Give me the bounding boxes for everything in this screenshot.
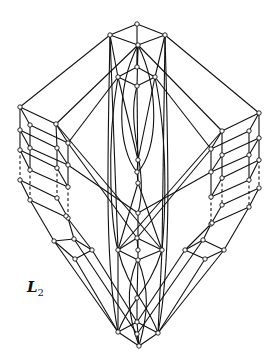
edge xyxy=(137,260,138,298)
edge xyxy=(75,250,92,259)
edge xyxy=(138,250,162,260)
edge xyxy=(20,150,57,168)
edge xyxy=(138,172,211,213)
lattice-node xyxy=(135,320,139,324)
edge xyxy=(56,124,57,148)
lattice-node xyxy=(137,344,141,348)
lattice-node xyxy=(66,141,70,145)
edge xyxy=(68,165,138,213)
edge xyxy=(137,77,155,86)
lattice-node xyxy=(108,33,112,37)
lattice-node xyxy=(203,257,207,261)
lattice-node xyxy=(55,166,59,170)
lattice-node xyxy=(136,158,140,162)
edge xyxy=(138,35,165,45)
lattice-node xyxy=(209,170,213,174)
lattice-label-subscript: 2 xyxy=(38,287,44,298)
lattice-node xyxy=(220,129,224,133)
edge xyxy=(137,149,211,238)
lattice-node xyxy=(201,238,205,242)
edge xyxy=(66,216,92,250)
lattice-node xyxy=(135,22,139,26)
edge xyxy=(224,207,249,250)
edge xyxy=(211,207,249,224)
lattice-node xyxy=(136,43,140,47)
lattice-node xyxy=(220,153,224,157)
lattice-node xyxy=(72,237,76,241)
lattice-node xyxy=(136,181,140,185)
lattice-node xyxy=(66,163,70,167)
lattice-node xyxy=(247,178,251,182)
lattice-node xyxy=(55,146,59,150)
edge xyxy=(137,67,155,77)
lattice-node xyxy=(210,221,214,225)
edge xyxy=(137,24,165,35)
lattice-node xyxy=(247,129,251,133)
edge xyxy=(54,241,118,332)
lattice-node xyxy=(28,146,32,150)
lattice-node xyxy=(257,136,261,140)
edge xyxy=(222,188,259,205)
lattice-node xyxy=(209,195,213,199)
lattice-node xyxy=(116,248,120,252)
edge xyxy=(118,250,138,260)
edge xyxy=(118,77,137,86)
lattice-node xyxy=(163,33,167,37)
lattice-node xyxy=(18,128,22,132)
lattice-node xyxy=(66,185,70,189)
edge xyxy=(138,45,222,131)
edge xyxy=(68,143,137,238)
edge xyxy=(68,77,118,143)
lattice-node xyxy=(156,331,160,335)
lattice-node xyxy=(135,65,139,69)
edge xyxy=(56,45,138,124)
lattice-node xyxy=(28,168,32,172)
curved-edge xyxy=(122,45,138,172)
lattice-node xyxy=(257,111,261,115)
edge xyxy=(137,240,203,334)
lattice-node xyxy=(28,198,32,202)
edge xyxy=(158,250,224,333)
lattice-node xyxy=(116,330,120,334)
edge xyxy=(118,67,137,77)
lattice-node xyxy=(135,296,139,300)
edge xyxy=(74,239,92,250)
edge xyxy=(138,77,155,160)
lattice-node xyxy=(136,211,140,215)
lattice-label: L2 xyxy=(27,278,44,298)
lattice-node xyxy=(220,176,224,180)
lattice-node xyxy=(135,84,139,88)
lattice-node xyxy=(90,248,94,252)
lattice-node xyxy=(135,170,139,174)
lattice-node xyxy=(136,248,140,252)
edge xyxy=(74,239,137,334)
lattice-node xyxy=(160,248,164,252)
edge xyxy=(222,160,259,178)
lattice-node xyxy=(183,248,187,252)
curved-edge xyxy=(118,250,162,332)
lattice-node xyxy=(135,332,139,336)
lattice-node xyxy=(73,257,77,261)
lattice-node xyxy=(209,147,213,151)
edge xyxy=(20,180,57,198)
lattice-node xyxy=(222,248,226,252)
edge xyxy=(205,250,224,259)
edge xyxy=(118,77,138,160)
lattice-node xyxy=(257,186,261,190)
lattice-node xyxy=(153,75,157,79)
lattice-node xyxy=(18,148,22,152)
edge xyxy=(68,218,74,239)
edge xyxy=(20,107,56,124)
edge xyxy=(30,170,68,187)
lattice-node xyxy=(55,196,59,200)
lattice-node xyxy=(247,205,251,209)
lattice-node xyxy=(18,105,22,109)
edge xyxy=(137,322,158,333)
edge xyxy=(54,239,74,241)
edge xyxy=(203,224,211,240)
edge xyxy=(110,24,137,35)
lattice-node xyxy=(28,123,32,127)
lattice-node xyxy=(18,178,22,182)
lattice-node xyxy=(52,239,56,243)
lattice-node xyxy=(64,214,68,218)
